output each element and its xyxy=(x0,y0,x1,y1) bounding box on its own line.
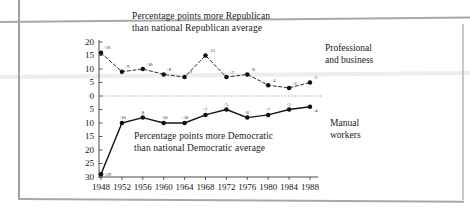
data-point-marker xyxy=(99,51,104,56)
class-voting-line-chart: Percentage points more Republican than n… xyxy=(0,0,470,211)
y-axis-tick-label: 5 xyxy=(77,104,94,114)
y-axis-tick-label: 10 xyxy=(77,64,94,74)
data-point-marker xyxy=(224,107,229,112)
data-point-marker xyxy=(99,172,104,177)
data-point-label: +4 xyxy=(271,78,276,83)
data-point-marker xyxy=(182,121,187,126)
data-point-marker xyxy=(203,113,208,118)
data-point-marker xyxy=(287,86,292,91)
data-point-marker xyxy=(287,107,292,112)
series-paths xyxy=(99,51,313,177)
data-point-marker xyxy=(266,83,271,88)
data-point-label: +7 xyxy=(202,107,207,112)
data-point-marker xyxy=(161,72,166,77)
data-point-marker xyxy=(161,121,166,126)
y-axis-tick-label: 30 xyxy=(77,172,94,182)
data-point-label: +10 xyxy=(145,62,152,67)
y-axis-tick-label: 20 xyxy=(77,37,94,47)
data-point-label: +5 xyxy=(286,102,291,107)
data-point-label: +7 xyxy=(187,70,192,75)
data-point-marker xyxy=(141,67,146,72)
data-point-label: +3 xyxy=(292,81,297,86)
data-point-label: +9 xyxy=(125,64,130,69)
data-point-label: +8 xyxy=(250,67,255,72)
series-path-professional-business xyxy=(101,53,310,88)
y-axis-tick-label: 5 xyxy=(77,77,94,87)
data-point-marker xyxy=(245,115,250,120)
y-axis-tick-label: 15 xyxy=(77,50,94,60)
data-point-marker xyxy=(120,69,125,74)
y-axis-tick-label: 20 xyxy=(77,145,94,155)
data-point-marker xyxy=(182,75,187,80)
y-axis-tick-label: 15 xyxy=(77,131,94,141)
data-point-marker xyxy=(224,75,229,80)
data-point-label: +10 xyxy=(161,115,168,120)
data-point-marker xyxy=(308,80,313,85)
y-axis-tick-label: 25 xyxy=(77,158,94,168)
data-point-label: +29 xyxy=(104,172,111,177)
data-point-label: +8 xyxy=(244,110,249,115)
data-point-label: +7 xyxy=(229,70,234,75)
data-point-label: +15 xyxy=(208,48,215,53)
data-point-label: +5 xyxy=(223,102,228,107)
data-point-label: +10 xyxy=(119,115,126,120)
data-point-label: +8 xyxy=(140,110,145,115)
data-point-label: +7 xyxy=(265,107,270,112)
plot-area xyxy=(0,0,470,211)
data-point-marker xyxy=(120,121,125,126)
data-point-label: +10 xyxy=(181,115,188,120)
data-point-label: +16 xyxy=(104,45,111,50)
data-point-marker xyxy=(245,72,250,77)
y-axis-tick-label: 10 xyxy=(77,118,94,128)
data-point-label: +4 xyxy=(312,108,317,113)
data-point-marker xyxy=(266,113,271,118)
x-axis-tick-label: 1988 xyxy=(297,182,323,192)
y-axis-tick-label: 0 xyxy=(77,91,94,101)
data-point-marker xyxy=(203,53,208,58)
data-point-marker xyxy=(141,115,146,120)
data-point-label: +5 xyxy=(313,75,318,80)
data-point-label: +8 xyxy=(166,67,171,72)
